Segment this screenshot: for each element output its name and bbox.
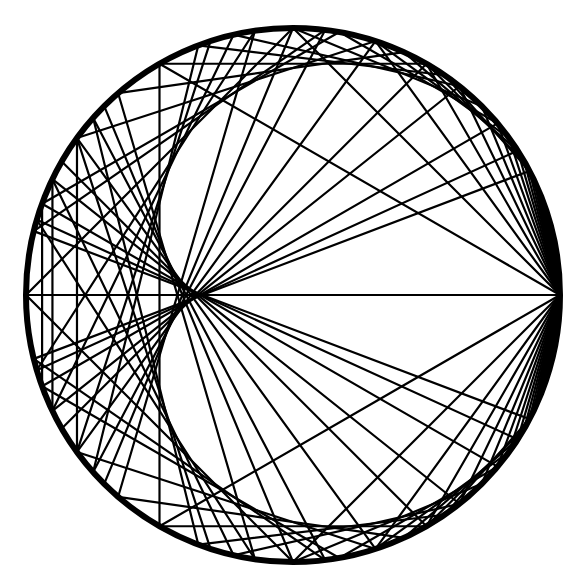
chord-line [376,452,510,549]
chord-line [427,295,561,526]
chord-line [118,497,404,538]
chord-line [376,41,560,295]
chord-line [445,419,530,515]
chord-line [427,64,561,295]
chord-line [482,106,560,295]
chord-line [404,439,518,538]
chord-line [376,41,510,138]
chord-line [482,295,560,484]
chord-line [34,359,325,560]
chord-line [376,295,560,549]
chord-line [34,30,325,231]
chord-line [160,64,561,295]
chord-diagram [0,0,584,585]
chord-line [404,52,518,151]
chord-line [160,295,561,526]
chord-line [445,75,530,171]
chord-line [118,52,404,93]
